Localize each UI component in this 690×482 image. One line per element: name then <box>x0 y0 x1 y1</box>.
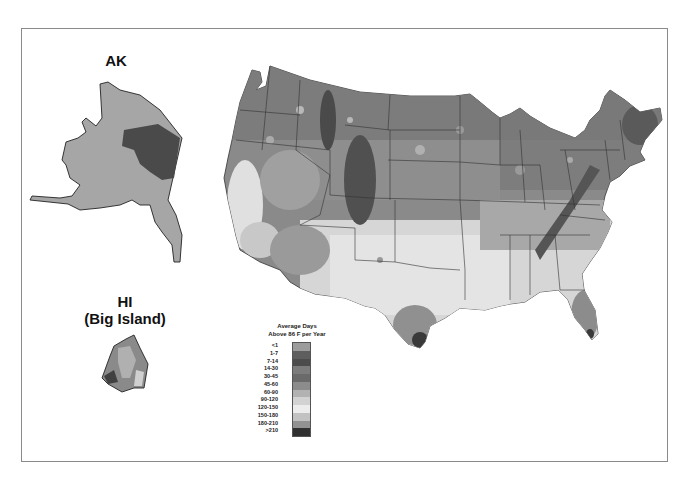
legend-label: 45-60 <box>246 381 278 389</box>
legend-label: 180-210 <box>246 420 278 428</box>
legend-title-line2: Above 86 F per Year <box>252 330 342 338</box>
hawaii-label-line1: HI <box>70 293 180 310</box>
map-canvas <box>0 0 690 482</box>
legend-label: >210 <box>246 427 278 435</box>
legend-label: <1 <box>246 342 278 350</box>
legend-labels: <1 1-7 7-14 14-30 30-45 45-60 60-90 90-1… <box>246 342 278 435</box>
legend-label: 30-45 <box>246 373 278 381</box>
conus-map <box>220 60 670 360</box>
legend-swatch <box>293 366 310 374</box>
hawaii-label-line2: (Big Island) <box>70 310 180 327</box>
legend-swatch <box>293 359 310 367</box>
legend-swatch <box>293 382 310 390</box>
legend-swatch <box>293 421 310 429</box>
legend-swatch <box>293 351 310 359</box>
legend-swatch <box>293 428 310 436</box>
legend-label: 60-90 <box>246 389 278 397</box>
legend-label: 7-14 <box>246 358 278 366</box>
legend-swatch <box>293 413 310 421</box>
legend-swatch <box>293 390 310 398</box>
hawaii-label: HI (Big Island) <box>70 293 180 327</box>
legend-label: 1-7 <box>246 350 278 358</box>
alaska-map <box>30 82 182 262</box>
legend-title-line1: Average Days <box>252 322 342 330</box>
legend-swatch <box>293 405 310 413</box>
legend-swatch <box>293 374 310 382</box>
legend-label: 120-150 <box>246 404 278 412</box>
legend-label: 150-180 <box>246 412 278 420</box>
legend-title: Average Days Above 86 F per Year <box>252 322 342 338</box>
legend-color-scale <box>292 342 311 437</box>
legend-label: 14-30 <box>246 365 278 373</box>
hawaii-map <box>102 335 148 392</box>
legend-swatch <box>293 397 310 405</box>
legend-label: 90-120 <box>246 396 278 404</box>
legend-swatch <box>293 343 310 351</box>
alaska-label: AK <box>86 52 146 69</box>
